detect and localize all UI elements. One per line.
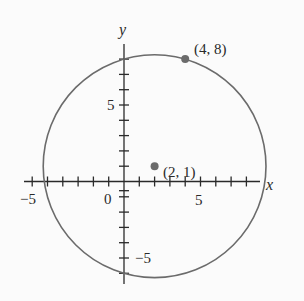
y-tick-label-neg5: −5 (135, 250, 151, 266)
y-tick-label-5: 5 (107, 97, 115, 113)
x-axis-label: x (265, 176, 273, 193)
point-label-2-1: (2, 1) (163, 164, 196, 181)
plot-svg: (4, 8) (2, 1) x y 0 −5 5 5 −5 (0, 0, 304, 301)
origin-label: 0 (104, 191, 112, 207)
coordinate-plane-figure: (4, 8) (2, 1) x y 0 −5 5 5 −5 (0, 0, 304, 301)
x-tick-label-neg5: −5 (20, 191, 36, 207)
x-tick-label-5: 5 (195, 192, 203, 208)
point-2-1 (151, 162, 159, 170)
point-4-8 (181, 55, 189, 63)
point-label-4-8: (4, 8) (194, 41, 227, 58)
y-axis-label: y (117, 21, 127, 39)
